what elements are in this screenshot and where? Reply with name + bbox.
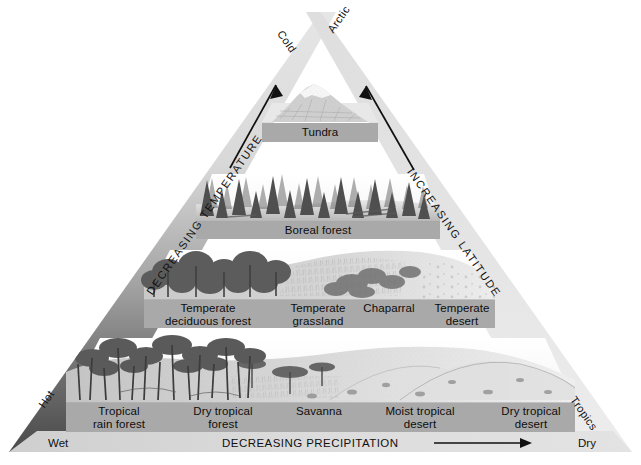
biome-label-tropical-rain-forest: Tropical rain forest [66, 405, 172, 431]
baseline-label-wet: Wet [48, 437, 68, 449]
biome-label-moist-tropical-desert: Moist tropical desert [364, 405, 476, 431]
biome-label-savanna: Savanna [272, 405, 366, 418]
baseline-label-dry: Dry [578, 437, 596, 449]
biome-label-temperate-desert: Temperate desert [424, 302, 500, 328]
baseline-caption-decreasing-precipitation: DECREASING PRECIPITATION [222, 437, 399, 449]
temperate-scene [141, 250, 495, 300]
biome-pyramid-diagram: Cold Arctic DECREASING TEMPERATURE INCRE… [0, 0, 641, 465]
biome-label-chaparral: Chaparral [348, 302, 430, 315]
biome-label-temperate-deciduous-forest: Temperate deciduous forest [148, 302, 268, 328]
biome-label-boreal-forest: Boreal forest [196, 224, 440, 237]
tropical-scene [66, 335, 575, 403]
biome-label-tundra: Tundra [262, 126, 378, 139]
biome-label-dry-tropical-forest: Dry tropical forest [170, 405, 276, 431]
biome-label-dry-tropical-desert: Dry tropical desert [478, 405, 584, 431]
